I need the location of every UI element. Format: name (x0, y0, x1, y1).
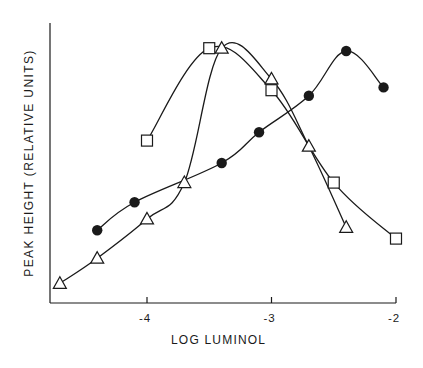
open-triangle-marker (302, 140, 315, 152)
filled-circle-marker (304, 91, 314, 101)
open-triangle-marker (141, 212, 154, 224)
open-triangle-marker (53, 277, 66, 289)
open-triangles-curve (60, 43, 346, 284)
x-axis-label: LOG LUMINOL (171, 333, 266, 347)
open-triangle-marker (91, 252, 104, 264)
filled-circle-marker (254, 127, 264, 137)
open-square-marker (204, 43, 215, 54)
x-tick-label: -4 (139, 312, 151, 324)
open-square-marker (328, 177, 339, 188)
x-ticks (147, 297, 396, 303)
chart-plot-area (0, 0, 423, 368)
filled-circle-marker (378, 82, 388, 92)
filled-circles-curve (97, 51, 383, 230)
open-square-marker (266, 85, 277, 96)
x-tick-label: -2 (388, 312, 400, 324)
series-curves (60, 43, 396, 284)
open-triangle-marker (340, 221, 353, 233)
filled-circle-marker (92, 225, 102, 235)
filled-circle-marker (217, 158, 227, 168)
filled-circle-marker (129, 197, 139, 207)
open-square-marker (142, 135, 153, 146)
filled-circle-marker (341, 46, 351, 56)
open-square-marker (391, 233, 402, 244)
x-tick-label: -3 (263, 312, 275, 324)
y-axis-label: PEAK HEIGHT (RELATIVE UNITS) (22, 49, 36, 276)
